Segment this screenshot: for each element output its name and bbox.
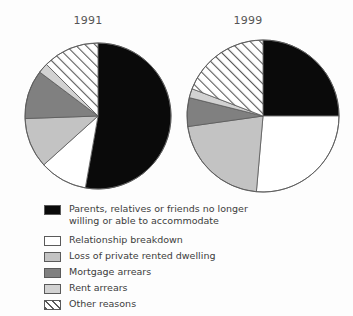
pie-1999 xyxy=(187,40,339,192)
legend-item-relationship[interactable]: Relationship breakdown xyxy=(44,234,344,246)
chart-legend: Parents, relatives or friends no longer … xyxy=(44,203,344,314)
pie-slice-loss_rented xyxy=(188,116,263,192)
legend-label-rent: Rent arrears xyxy=(69,282,128,294)
legend-item-other[interactable]: Other reasons xyxy=(44,298,344,310)
legend-item-loss_rented[interactable]: Loss of private rented dwelling xyxy=(44,250,344,262)
legend-label-parents: Parents, relatives or friends no longer … xyxy=(69,203,248,227)
legend-item-mortgage[interactable]: Mortgage arrears xyxy=(44,266,344,278)
pie-slice-relationship xyxy=(256,116,339,192)
legend-label-relationship: Relationship breakdown xyxy=(69,234,183,246)
hatched-swatch xyxy=(44,300,61,310)
solid-white-swatch xyxy=(44,236,61,246)
pie-chart-figure: 1991 1999 Parents, relatives or friends … xyxy=(0,0,353,316)
legend-label-other: Other reasons xyxy=(69,298,136,310)
pie-slice-parents xyxy=(263,40,339,116)
legend-item-parents[interactable]: Parents, relatives or friends no longer … xyxy=(44,203,344,227)
pie-1991 xyxy=(25,43,171,189)
pie-charts-svg xyxy=(0,0,353,200)
legend-item-rent[interactable]: Rent arrears xyxy=(44,282,344,294)
light-grey-swatch xyxy=(44,252,61,262)
pale-grey-swatch xyxy=(44,284,61,294)
solid-black-swatch xyxy=(44,205,61,215)
legend-label-mortgage: Mortgage arrears xyxy=(69,266,151,278)
dark-grey-swatch xyxy=(44,268,61,278)
legend-label-loss_rented: Loss of private rented dwelling xyxy=(69,250,215,262)
